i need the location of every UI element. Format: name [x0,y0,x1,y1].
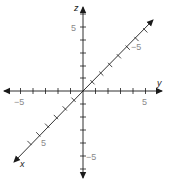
z-tick-label-neg5: −5 [86,152,96,162]
x-tick-label-5: 5 [41,138,46,148]
y-axis-label: y [156,78,162,88]
x-axis: −5 5 x [14,20,153,169]
z-axis-label: z [73,3,79,13]
x-tick-label-neg5: −5 [131,42,141,52]
z-tick-label-5: 5 [71,23,76,33]
coordinate-axes-diagram: −5 5 y 5 −5 z [0,0,169,182]
y-tick-label-neg5: −5 [14,97,24,107]
x-axis-label: x [19,159,25,169]
y-tick-label-5: 5 [142,97,147,107]
